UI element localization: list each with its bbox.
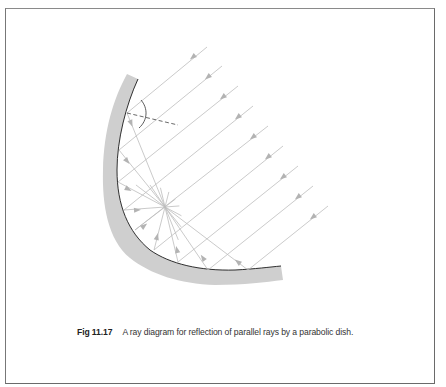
reflected-arrow-icon (175, 246, 180, 253)
incident-arrow-icon (220, 93, 227, 99)
incident-arrow-icon (235, 113, 242, 119)
incident-arrow-icon (265, 153, 272, 159)
reflected-ray (127, 113, 178, 240)
incident-arrow-icon (250, 133, 257, 139)
reflected-arrow-icon (123, 157, 129, 164)
incident-ray (124, 106, 253, 210)
figure-caption: Fig 11.17A ray diagram for reflection of… (77, 327, 353, 337)
incident-ray (118, 86, 238, 182)
incident-ray (154, 146, 283, 250)
angle-arc (139, 100, 146, 128)
rays-group (118, 47, 328, 270)
normal-and-angle (127, 100, 178, 128)
reflected-arrow-icon (154, 233, 159, 240)
incident-arrow-icon (295, 193, 302, 199)
dish-reflecting-surface (117, 79, 281, 270)
reflected-arrow-icon (127, 119, 132, 126)
dish-body (103, 74, 283, 285)
incident-ray (178, 166, 298, 262)
incident-arrow-icon (205, 73, 212, 79)
incident-arrow-icon (280, 173, 287, 179)
parabolic-dish (103, 74, 283, 285)
reflected-arrow-icon (140, 224, 147, 230)
figure-caption-text: A ray diagram for reflection of parallel… (122, 327, 353, 337)
normal-dashed-line (127, 113, 178, 125)
incident-ray (248, 206, 328, 270)
figure-number: Fig 11.17 (77, 327, 112, 337)
reflected-ray (124, 206, 179, 210)
incident-arrow-icon (310, 213, 317, 219)
reflected-arrow-icon (134, 208, 141, 213)
